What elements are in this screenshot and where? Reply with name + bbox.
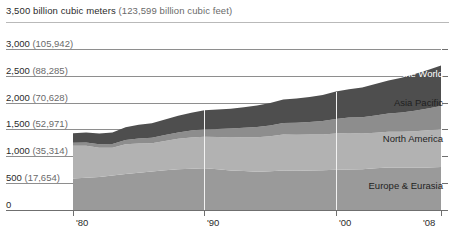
y-axis-label-value: 1,000: [6, 145, 30, 156]
y-axis-label-paren: (17,654): [22, 172, 60, 183]
y-axis-label-2500: 2,500 (88,285): [6, 65, 68, 76]
units-primary: 3,500 billion cubic meters: [6, 5, 116, 16]
x-axis-tick-2008: [441, 211, 442, 216]
series-label-rest-of-world-line2: the World: [403, 68, 443, 80]
y-axis-label-value: 3,000: [6, 38, 30, 49]
y-axis-label-paren: (105,942): [30, 38, 73, 49]
x-axis-tick-1990: [204, 211, 205, 216]
x-axis-tick-1980: [73, 211, 74, 216]
y-axis-label-value: 1,500: [6, 118, 30, 129]
gridline-extension-500: [6, 183, 73, 184]
y-axis-label-paren: (52,971): [30, 118, 68, 129]
units-secondary: (123,599 billion cubic feet): [119, 5, 233, 16]
y-axis-label-2000: 2,000 (70,628): [6, 92, 68, 103]
units-caption: 3,500 billion cubic meters (123,599 bill…: [6, 5, 232, 16]
series-label-north-america: North America: [383, 133, 443, 145]
chart-figure: 3,500 billion cubic meters (123,599 bill…: [0, 0, 455, 242]
gridline-extension-2500: [6, 76, 73, 77]
x-axis-tick-2000: [336, 211, 337, 216]
y-axis-label-paren: (35,314): [30, 145, 68, 156]
y-axis-label-500: 500 (17,654): [6, 172, 60, 183]
series-label-asia-pacific: Asia Pacific: [394, 97, 443, 109]
y-axis-label-paren: (70,628): [30, 92, 68, 103]
gridline-extension-2000: [6, 103, 73, 104]
x-axis-label-2008: '08: [423, 217, 435, 228]
gridline-extension-1000: [6, 156, 73, 157]
right-tick-1000: [442, 156, 448, 157]
y-axis-label-0: 0: [6, 199, 11, 210]
series-label-rest-of-world: Rest of the World: [403, 56, 443, 79]
series-label-rest-of-world-line1: Rest of: [403, 56, 443, 68]
right-tick-1500: [442, 129, 448, 130]
gridline-extension-1500: [6, 129, 73, 130]
y-axis-label-1500: 1,500 (52,971): [6, 118, 68, 129]
y-axis-label-1000: 1,000 (35,314): [6, 145, 68, 156]
series-label-europe-eurasia: Europe & Eurasia: [369, 180, 443, 192]
gridline-extension-3000: [6, 49, 73, 50]
y-axis-label-value: 2,000: [6, 92, 30, 103]
y-axis-label-value: 500: [6, 172, 22, 183]
x-axis-label-1990: '90: [207, 217, 219, 228]
x-axis-label-1980: '80: [76, 217, 88, 228]
x-axis-label-2000: '00: [339, 217, 351, 228]
y-axis-label-value: 2,500: [6, 65, 30, 76]
right-tick-3000: [442, 49, 448, 50]
year-marker-line-2000: [336, 92, 337, 210]
y-axis-label-value: 0: [6, 199, 11, 210]
y-axis-label-paren: (88,285): [30, 65, 68, 76]
y-axis-label-3000: 3,000 (105,942): [6, 38, 73, 49]
year-marker-line-1990: [204, 110, 205, 210]
